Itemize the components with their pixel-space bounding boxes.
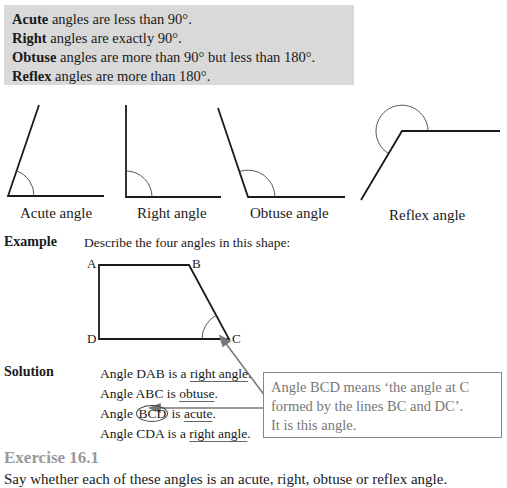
answer: right angle (190, 366, 248, 381)
example-label: Example (4, 234, 57, 250)
obtuse-angle-figure (218, 108, 345, 197)
right-arc (126, 171, 152, 197)
row-text: Angle ABC is (100, 386, 179, 401)
bcd-arc (202, 315, 216, 339)
row-text: . (214, 386, 217, 401)
note-line: formed by the lines BC and DC’. (271, 397, 501, 416)
point-d: D (87, 331, 96, 347)
solution-row: Angle CDA is a right angle. (100, 424, 251, 444)
row-text: Angle CDA is a (100, 426, 189, 441)
right-angle-figure (126, 105, 221, 197)
row-text: . (212, 406, 215, 421)
row-text: . (248, 366, 251, 381)
obtuse-arc (239, 170, 275, 197)
example-prompt: Describe the four angles in this shape: (84, 235, 290, 251)
solution-row: Angle ABC is obtuse. (100, 384, 251, 404)
reflex-arc (376, 105, 428, 153)
exercise-heading: Exercise 16.1 (4, 448, 99, 468)
point-c: C (232, 331, 241, 347)
answer: acute (184, 406, 212, 421)
solution-row: Angle DAB is a right angle. (100, 364, 251, 384)
answer: obtuse (179, 386, 214, 401)
answer: right angle (189, 426, 247, 441)
caption-obtuse: Obtuse angle (250, 205, 329, 222)
solution-list: Angle DAB is a right angle. Angle ABC is… (100, 364, 251, 444)
circled-bcd: BCD (136, 405, 168, 422)
row-text: is (168, 406, 184, 421)
row-text: Angle DAB is a (100, 366, 190, 381)
caption-right: Right angle (137, 205, 207, 222)
reflex-angle-figure (361, 131, 500, 200)
caption-reflex: Reflex angle (389, 207, 465, 224)
row-text: Angle (100, 406, 136, 421)
row-text: . (247, 426, 250, 441)
solution-row: Angle BCD is acute. (100, 404, 251, 424)
caption-acute: Acute angle (20, 205, 92, 222)
acute-arc (17, 171, 34, 196)
solution-label: Solution (4, 364, 54, 380)
note-line: It is this angle. (271, 416, 501, 435)
point-b: B (192, 256, 201, 272)
point-a: A (87, 256, 96, 272)
acute-angle-figure (8, 105, 104, 196)
note-line: Angle BCD means ‘the angle at C (271, 378, 501, 397)
exercise-instruction: Say whether each of these angles is an a… (4, 471, 447, 488)
annotation-box: Angle BCD means ‘the angle at C formed b… (263, 372, 502, 438)
quadrilateral-abcd (99, 265, 229, 339)
